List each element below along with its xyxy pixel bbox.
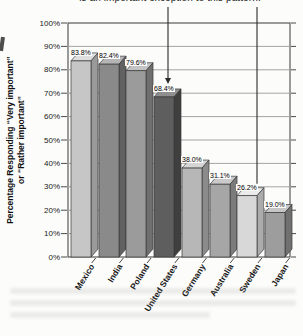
bar-front-4 [182,168,202,257]
bar-side-2 [146,63,153,257]
y-tick-label-50: 50% [32,136,60,145]
y-tick-label-0: 0% [32,253,60,262]
y-tick-label-60: 60% [32,112,60,121]
bar-side-6 [257,188,264,257]
x-tick-4 [175,258,179,263]
page-showthrough-2 [10,300,296,306]
page-showthrough-3 [10,312,210,318]
bar-front-5 [210,184,230,257]
callout-arrowhead-united-states [165,78,171,84]
value-label-3: 68.4% [153,85,175,92]
value-label-2: 79.6% [125,59,147,66]
page-showthrough-1 [10,288,296,294]
value-label-4: 38.0% [181,156,203,163]
bar-front-2 [126,71,146,257]
x-tick-3 [147,258,151,263]
bar-front-1 [99,64,119,257]
x-tick-8 [286,258,290,263]
x-tick-6 [230,258,234,263]
y-tick-label-100: 100% [32,19,60,28]
value-label-1: 82.4% [98,52,120,59]
y-tick-label-90: 90% [32,42,60,51]
x-tick-7 [258,258,262,263]
bar-side-7 [285,205,292,257]
y-tick-label-40: 40% [32,159,60,168]
value-label-5: 31.1% [209,172,231,179]
bar-side-4 [202,160,209,257]
bar-side-1 [119,56,126,257]
bar-side-3 [174,89,181,257]
y-tick-label-80: 80% [32,65,60,74]
y-tick-label-70: 70% [32,89,60,98]
x-tick-1 [92,258,96,263]
bar-front-7 [265,213,285,257]
y-tick-label-20: 20% [32,206,60,215]
value-label-0: 83.8% [70,49,92,56]
bar-front-0 [71,61,91,257]
bar-front-3 [154,97,174,257]
y-tick-label-30: 30% [32,182,60,191]
y-tick-label-10: 10% [32,229,60,238]
value-label-7: 19.0% [264,201,286,208]
value-label-6: 26.2% [236,184,258,191]
x-tick-2 [119,258,123,263]
x-tick-5 [203,258,207,263]
figure-page: is an important exception to this patter… [0,0,303,336]
bar-front-6 [237,196,257,257]
bar-side-0 [91,53,98,257]
